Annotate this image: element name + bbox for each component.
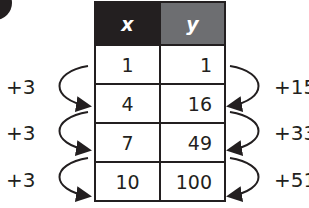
- left-difference-label: +3: [6, 75, 35, 99]
- left-arrow-icon: [60, 112, 89, 150]
- left-difference-label: +3: [6, 168, 35, 192]
- left-arrow-icon: [60, 158, 89, 196]
- right-difference-label: +33: [274, 121, 309, 145]
- right-arrow-icon: [230, 158, 259, 196]
- left-difference-label: +3: [6, 121, 35, 145]
- left-arrow-icon: [60, 66, 89, 106]
- difference-arrows: [0, 0, 309, 208]
- right-difference-label: +51: [274, 168, 309, 192]
- right-arrow-icon: [230, 112, 259, 150]
- right-difference-label: +15: [274, 75, 309, 99]
- right-arrow-icon: [230, 66, 259, 106]
